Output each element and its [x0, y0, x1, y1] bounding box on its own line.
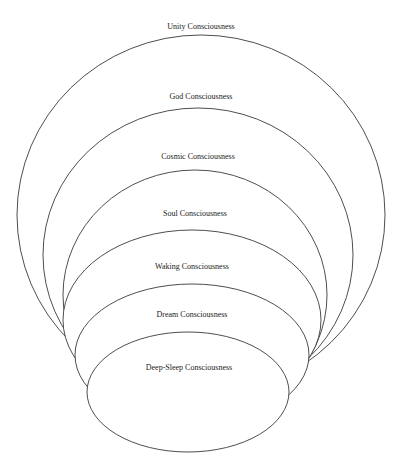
cosmic-label: Cosmic Consciousness [161, 152, 235, 161]
unity-label: Unity Consciousness [167, 22, 234, 31]
god-label: God Consciousness [170, 92, 233, 101]
waking-label: Waking Consciousness [155, 262, 229, 271]
deep-sleep-label: Deep-Sleep Consciousness [146, 363, 232, 372]
dream-label: Dream Consciousness [157, 310, 228, 319]
soul-label: Soul Consciousness [163, 209, 227, 218]
consciousness-levels-diagram: Unity Consciousness God Consciousness Co… [0, 0, 401, 470]
dream-ellipse [87, 332, 289, 452]
